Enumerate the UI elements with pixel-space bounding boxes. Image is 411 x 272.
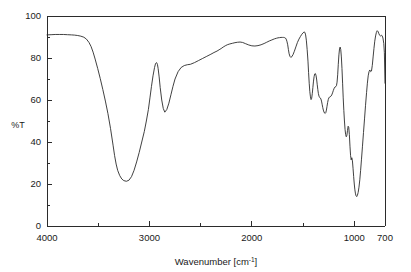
x-tick-label: 4000 — [36, 232, 57, 243]
x-tick-label: 3000 — [139, 232, 160, 243]
y-tick-label: 100 — [25, 10, 41, 21]
chart-svg: 020406080100 4000300020001000700 %T Wave… — [0, 0, 411, 272]
x-tick-label: 1000 — [344, 232, 365, 243]
x-axis-title-tail: ] — [255, 256, 258, 267]
y-tick-label: 40 — [30, 136, 41, 147]
x-tick-label: 2000 — [241, 232, 262, 243]
x-axis-title-base: Wavenumber [cm — [175, 256, 249, 267]
y-tick-label: 80 — [30, 52, 41, 63]
x-tick-label: 700 — [377, 232, 393, 243]
y-axis-title: %T — [11, 120, 25, 130]
y-tick-label: 60 — [30, 94, 41, 105]
y-tick-label: 20 — [30, 178, 41, 189]
x-axis-title: Wavenumber [cm-1] — [175, 256, 258, 268]
y-tick-label: 0 — [36, 220, 41, 231]
ir-spectrum-chart: 020406080100 4000300020001000700 %T Wave… — [0, 0, 411, 272]
